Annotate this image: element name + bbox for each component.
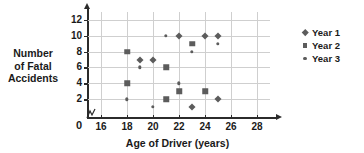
x-axis-tick-label: 28 <box>245 121 269 132</box>
data-point <box>124 81 130 87</box>
y-axis-title-line-3: Accidents <box>2 72 64 85</box>
x-axis-tick-label: 22 <box>167 121 191 132</box>
x-axis-tick-label: 20 <box>141 121 165 132</box>
legend-item-label: Year 2 <box>312 40 340 51</box>
legend-item-label: Year 3 <box>312 53 340 64</box>
y-axis-tick-label: 2 <box>62 93 82 104</box>
gridline-vertical <box>153 12 154 115</box>
legend-item-year-3[interactable]: Year 3 <box>300 52 362 65</box>
data-point <box>163 96 169 102</box>
y-axis-tick-label: 8 <box>62 46 82 57</box>
gridline-vertical <box>205 12 206 115</box>
x-axis-tick-label: 16 <box>89 121 113 132</box>
y-axis-title-line-1: Number <box>2 47 64 60</box>
x-axis-tick-label: 24 <box>193 121 217 132</box>
gridline-vertical <box>179 12 180 115</box>
y-axis-tick-label: 4 <box>62 77 82 88</box>
data-point <box>176 88 182 94</box>
y-axis-tick-label: 10 <box>62 30 82 41</box>
y-axis-title-line-2: of Fatal <box>2 60 64 73</box>
chart-legend: Year 1Year 2Year 3 <box>300 26 362 65</box>
legend-item-year-1[interactable]: Year 1 <box>300 26 362 39</box>
data-point <box>124 49 130 55</box>
data-point <box>202 88 208 94</box>
square-marker-icon <box>300 43 310 48</box>
diamond-marker-icon <box>300 30 310 35</box>
x-axis-line <box>87 117 277 119</box>
gridline-vertical <box>231 12 232 115</box>
dot-marker-icon <box>300 57 310 60</box>
y-axis-tick-label: 6 <box>62 61 82 72</box>
legend-item-label: Year 1 <box>312 27 340 38</box>
scatter-plot-figure: Number of Fatal Accidents 0 24681012 161… <box>0 0 364 153</box>
data-point <box>189 41 195 47</box>
y-axis-arrow-icon <box>84 3 90 9</box>
data-point <box>163 65 169 71</box>
gridline-vertical <box>101 12 102 115</box>
x-axis-tick-label: 26 <box>219 121 243 132</box>
plot-area <box>88 12 270 115</box>
x-axis-title: Age of Driver (years) <box>70 137 285 149</box>
y-axis-title: Number of Fatal Accidents <box>2 47 64 85</box>
x-axis-arrow-icon <box>276 114 282 120</box>
legend-item-year-2[interactable]: Year 2 <box>300 39 362 52</box>
gridline-vertical <box>257 12 258 115</box>
axis-origin-label: 0 <box>66 119 82 131</box>
y-axis-tick-label: 12 <box>62 14 82 25</box>
x-axis-tick-label: 18 <box>115 121 139 132</box>
